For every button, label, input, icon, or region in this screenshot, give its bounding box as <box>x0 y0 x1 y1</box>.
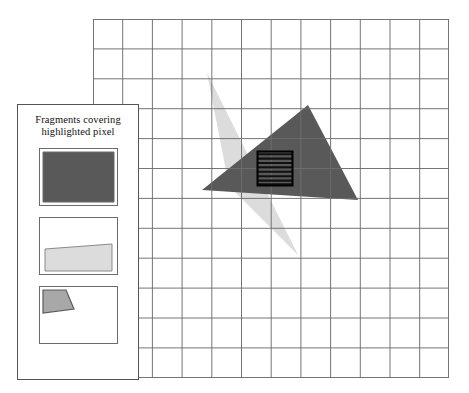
fragment-partial-corner-shape <box>40 287 117 343</box>
fragment-partial-lower-shape <box>40 218 117 274</box>
fragment-swatch-partial-corner[interactable] <box>39 286 118 344</box>
fragment-list <box>18 148 138 344</box>
fragment-swatch-partial-lower[interactable] <box>39 217 118 275</box>
legend-caption-line-2: highlighted pixel <box>24 126 132 138</box>
fragment-full-coverage-shape <box>40 149 117 205</box>
legend-caption-line-1: Fragments covering <box>24 114 132 126</box>
fragments-legend-panel: Fragments covering highlighted pixel <box>17 104 139 380</box>
pixel-grid-canvas <box>93 19 449 378</box>
legend-caption: Fragments covering highlighted pixel <box>24 114 132 139</box>
pixel-grid <box>93 19 449 378</box>
rasterization-figure: Fragments covering highlighted pixel <box>0 0 469 393</box>
fragment-swatch-full-coverage[interactable] <box>39 148 118 206</box>
